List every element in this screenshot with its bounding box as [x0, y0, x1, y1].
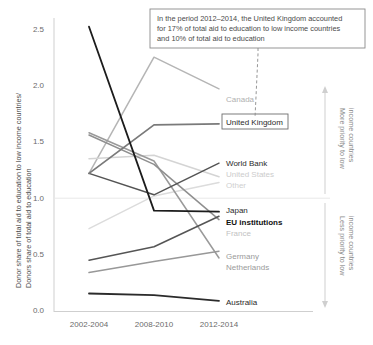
callout-leader-line [255, 48, 258, 118]
less-priority-line2: income countries [347, 216, 356, 271]
callout-line-2: for 17% of total aid to education to low… [157, 24, 341, 33]
series-line-eu-institutions [89, 135, 219, 220]
more-priority-annotation: More priority to low income countries [322, 86, 356, 194]
series-label-united-states: United States [226, 170, 274, 179]
y-axis-ticks: 2.5 2.0 1.5 1.0 0.5 0.0 [33, 25, 45, 315]
series-label-united-kingdom: United Kingdom [226, 118, 283, 127]
series-line-netherlands [89, 251, 219, 272]
x-axis-ticks: 2002-2004 2008-2010 2012-2014 [70, 320, 239, 329]
less-priority-arrow-head-icon [322, 301, 328, 308]
x-tick-2012-2014: 2012-2014 [200, 320, 239, 329]
y-axis-title-line2: Donors share of total aid to education [24, 169, 33, 288]
line-chart-figure: Donor share of total aid to education to… [0, 0, 373, 345]
series-label-japan: Japan [226, 206, 248, 215]
more-priority-arrow-head-icon [322, 86, 328, 93]
y-tick-2.5: 2.5 [33, 25, 45, 34]
y-axis-title: Donor share of total aid to education to… [14, 93, 33, 288]
series-label-other: Other [226, 181, 246, 190]
uk-callout-annotation: In the period 2012–2014, the United King… [150, 9, 365, 118]
less-priority-line1: Less priority to low [338, 216, 347, 276]
more-priority-line1: More priority to low [338, 108, 347, 170]
series-line-other [89, 182, 219, 228]
more-priority-line2: income countries [347, 108, 356, 163]
series-line-japan [89, 27, 219, 212]
series-label-germany: Germany [226, 252, 259, 261]
y-axis-title-line1: Donor share of total aid to education to… [14, 93, 23, 288]
series-label-netherlands: Netherlands [226, 263, 269, 272]
series-line-world-bank-curve [89, 163, 219, 195]
x-tick-2002-2004: 2002-2004 [70, 320, 109, 329]
series-label-world-bank: World Bank [226, 159, 268, 168]
y-tick-1.0: 1.0 [33, 194, 45, 203]
y-tick-2.0: 2.0 [33, 81, 45, 90]
less-priority-annotation: Less priority to low income countries [322, 203, 356, 308]
series-label-canada: Canada [226, 95, 255, 104]
y-tick-0.0: 0.0 [33, 306, 45, 315]
series-line-australia [89, 294, 219, 301]
callout-line-1: In the period 2012–2014, the United King… [157, 14, 342, 23]
y-tick-0.5: 0.5 [33, 250, 45, 259]
callout-line-3: and 10% of total aid to education [157, 34, 265, 43]
series-lines [89, 27, 219, 301]
chart-svg: Donor share of total aid to education to… [0, 0, 373, 345]
x-tick-2008-2010: 2008-2010 [135, 320, 174, 329]
y-tick-1.5: 1.5 [33, 137, 45, 146]
series-label-eu-institutions: EU institutions [226, 218, 283, 227]
series-label-australia: Australia [226, 298, 258, 307]
series-label-france: France [226, 229, 251, 238]
series-line-united-kingdom [89, 124, 219, 174]
united-kingdom-label-box: United Kingdom [222, 114, 288, 129]
